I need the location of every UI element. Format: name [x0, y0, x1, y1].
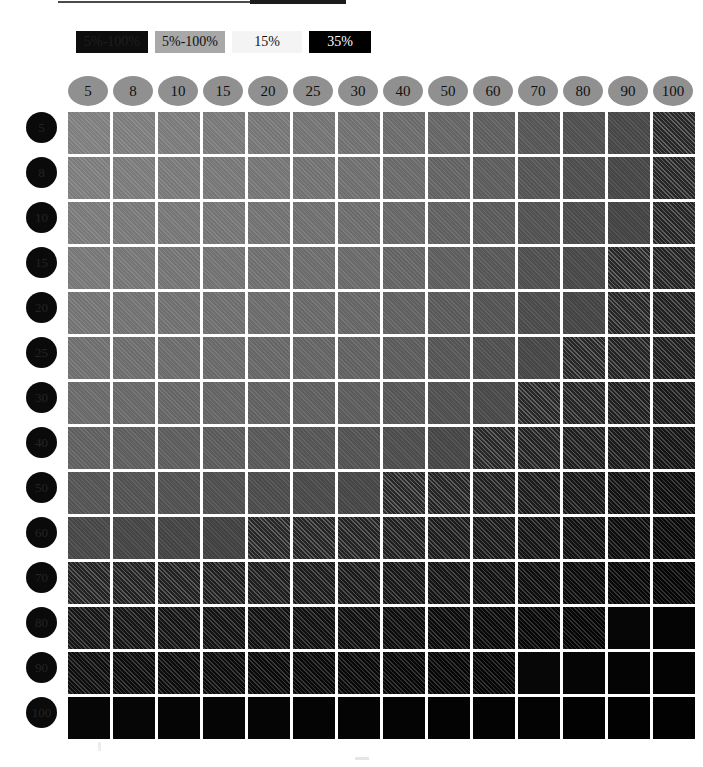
cell-texture — [608, 382, 650, 424]
cell-texture — [158, 247, 200, 289]
heatmap-cell — [563, 157, 605, 199]
cell-texture — [203, 247, 245, 289]
cell-texture — [563, 157, 605, 199]
column-header-50: 50 — [428, 76, 468, 106]
cell-texture — [113, 517, 155, 559]
cell-texture — [68, 562, 110, 604]
heatmap-cell — [473, 247, 515, 289]
cell-texture — [473, 472, 515, 514]
cell-texture — [608, 112, 650, 154]
cell-texture — [653, 697, 695, 739]
heatmap-cell — [473, 382, 515, 424]
cell-texture — [68, 517, 110, 559]
heatmap-cell — [203, 247, 245, 289]
cell-texture — [653, 157, 695, 199]
heatmap-cell — [338, 202, 380, 244]
heatmap-cell — [518, 427, 560, 469]
heatmap-cell — [293, 652, 335, 694]
heatmap-cell — [203, 517, 245, 559]
cell-texture — [203, 157, 245, 199]
heatmap-cell — [338, 562, 380, 604]
cell-texture — [608, 607, 650, 649]
header-rule-light-segment — [58, 1, 250, 3]
cell-texture — [473, 292, 515, 334]
cell-texture — [428, 472, 470, 514]
heatmap-cell — [518, 517, 560, 559]
scan-artifact-bottom — [355, 757, 369, 760]
heatmap-cell — [113, 112, 155, 154]
cell-texture — [518, 157, 560, 199]
heatmap-cell — [203, 157, 245, 199]
cell-texture — [563, 652, 605, 694]
cell-texture — [653, 472, 695, 514]
cell-texture — [518, 292, 560, 334]
cell-texture — [158, 382, 200, 424]
heatmap-cell — [653, 157, 695, 199]
heatmap-cell — [608, 157, 650, 199]
cell-texture — [653, 382, 695, 424]
cell-texture — [608, 472, 650, 514]
heatmap-cell — [113, 607, 155, 649]
column-header-10: 10 — [158, 76, 198, 106]
cell-texture — [293, 112, 335, 154]
heatmap-cell — [428, 517, 470, 559]
heatmap-cell — [608, 562, 650, 604]
cell-texture — [248, 247, 290, 289]
cell-texture — [518, 652, 560, 694]
legend-item-1: 5%-100% — [155, 31, 225, 53]
column-header-20: 20 — [248, 76, 288, 106]
heatmap-cell — [428, 247, 470, 289]
heatmap-cell — [113, 337, 155, 379]
column-header-60: 60 — [473, 76, 513, 106]
heatmap-cell — [518, 157, 560, 199]
heatmap-cell — [608, 292, 650, 334]
row-header-40: 40 — [26, 427, 57, 458]
heatmap-cell — [248, 157, 290, 199]
cell-texture — [338, 202, 380, 244]
cell-texture — [203, 652, 245, 694]
heatmap-cell — [428, 382, 470, 424]
heatmap-cell — [608, 382, 650, 424]
cell-texture — [68, 427, 110, 469]
heatmap-cell — [518, 697, 560, 739]
cell-texture — [113, 607, 155, 649]
row-header-20: 20 — [26, 292, 57, 323]
row-header-100: 100 — [26, 697, 57, 728]
heatmap-cell — [608, 337, 650, 379]
heatmap-cell — [68, 292, 110, 334]
cell-texture — [518, 472, 560, 514]
heatmap-cell — [158, 427, 200, 469]
cell-texture — [653, 607, 695, 649]
cell-texture — [248, 337, 290, 379]
cell-texture — [518, 382, 560, 424]
column-header-8: 8 — [113, 76, 153, 106]
heatmap-cell — [68, 427, 110, 469]
cell-texture — [158, 697, 200, 739]
heatmap-cell — [383, 247, 425, 289]
cell-texture — [203, 337, 245, 379]
header-rule-dark-segment — [250, 0, 346, 4]
column-header-25: 25 — [293, 76, 333, 106]
cell-texture — [158, 607, 200, 649]
heatmap-cell — [158, 337, 200, 379]
heatmap-cell — [293, 292, 335, 334]
cell-texture — [293, 292, 335, 334]
cell-texture — [338, 382, 380, 424]
cell-texture — [563, 472, 605, 514]
cell-texture — [518, 517, 560, 559]
heatmap-cell — [608, 202, 650, 244]
heatmap-cell — [158, 202, 200, 244]
cell-texture — [563, 697, 605, 739]
cell-texture — [203, 292, 245, 334]
legend-item-2: 15% — [232, 31, 302, 53]
heatmap-cell — [428, 652, 470, 694]
heatmap-cell — [383, 337, 425, 379]
cell-texture — [113, 112, 155, 154]
heatmap-cell — [293, 697, 335, 739]
heatmap-cell — [113, 697, 155, 739]
heatmap-cell — [248, 472, 290, 514]
cell-texture — [158, 562, 200, 604]
heatmap-cell — [68, 517, 110, 559]
cell-texture — [293, 247, 335, 289]
column-header-70: 70 — [518, 76, 558, 106]
